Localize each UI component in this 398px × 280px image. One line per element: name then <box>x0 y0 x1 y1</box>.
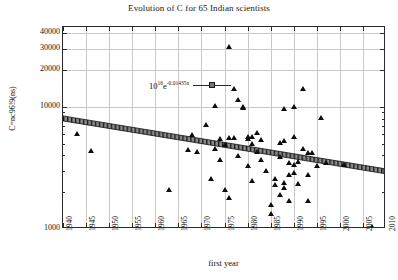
data-point-marker <box>281 106 287 111</box>
x-tick-label: 1975 <box>227 216 236 231</box>
x-tick-label: 1945 <box>88 216 97 231</box>
data-point-marker <box>222 187 228 192</box>
data-point-marker <box>254 130 260 135</box>
data-point-marker <box>272 182 278 187</box>
data-point-marker <box>314 163 320 168</box>
data-point-marker <box>318 115 324 120</box>
x-tick-label: 1965 <box>180 216 189 231</box>
trend-line <box>63 27 384 227</box>
data-point-marker <box>194 149 200 154</box>
data-point-marker <box>240 105 246 110</box>
data-point-marker <box>208 176 214 181</box>
data-point-marker <box>249 134 255 139</box>
data-point-marker <box>235 153 241 158</box>
data-point-marker <box>277 192 283 197</box>
data-point-marker <box>323 160 329 165</box>
data-point-marker <box>222 142 228 147</box>
x-tick-label: 1970 <box>203 216 212 231</box>
x-tick-label: 1985 <box>273 216 282 231</box>
data-point-marker <box>300 86 306 91</box>
data-point-marker <box>166 187 172 192</box>
data-point-marker <box>268 202 274 207</box>
data-point-marker <box>258 137 264 142</box>
y-tick-label: 1000 <box>2 224 60 232</box>
chart-container: Evolution of C for 65 Indian scientists … <box>0 0 398 280</box>
chart-title: Evolution of C for 65 Indian scientists <box>0 3 398 13</box>
x-axis-tick-labels: 1940194519501955196019651970197519801985… <box>62 230 385 256</box>
data-point-marker <box>249 178 255 183</box>
data-point-marker <box>189 132 195 137</box>
legend-square-marker <box>209 82 215 88</box>
data-point-marker <box>291 104 297 109</box>
data-point-marker <box>249 141 255 146</box>
plot-area: 1016e-0.01435x <box>62 26 385 228</box>
data-point-marker <box>341 162 347 167</box>
data-point-marker <box>309 150 315 155</box>
data-point-marker <box>217 157 223 162</box>
data-point-marker <box>231 135 237 140</box>
x-tick-label: 1990 <box>296 216 305 231</box>
data-point-marker <box>263 168 269 173</box>
data-point-marker <box>281 138 287 143</box>
legend-equation: 1016e-0.01435x <box>149 80 189 91</box>
data-point-marker <box>305 172 311 177</box>
data-point-marker <box>203 122 209 127</box>
data-point-marker <box>226 195 232 200</box>
data-point-marker <box>74 131 80 136</box>
x-axis-title: first year <box>62 258 385 268</box>
data-point-marker <box>305 198 311 203</box>
data-point-marker <box>291 170 297 175</box>
x-tick-label: 1980 <box>250 216 259 231</box>
data-point-marker <box>258 157 264 162</box>
x-tick-label: 1955 <box>134 216 143 231</box>
data-point-marker <box>277 154 283 159</box>
data-point-marker <box>286 198 292 203</box>
x-tick-label: 1940 <box>65 216 74 231</box>
data-point-marker <box>226 44 232 49</box>
data-point-marker <box>295 181 301 186</box>
x-tick-label: 2000 <box>342 216 351 231</box>
data-point-marker <box>245 163 251 168</box>
y-tick-label: 40000 <box>2 28 60 36</box>
data-point-marker <box>291 134 297 139</box>
data-point-marker <box>235 97 241 102</box>
data-point-marker <box>88 148 94 153</box>
y-tick-label: 30000 <box>2 44 60 52</box>
data-point-marker <box>272 176 278 181</box>
x-tick-label: 2010 <box>388 216 397 231</box>
data-point-marker <box>231 86 237 91</box>
data-point-marker <box>281 185 287 190</box>
legend-line-sample <box>193 81 231 89</box>
x-tick-label: 1950 <box>111 216 120 231</box>
data-point-marker <box>212 146 218 151</box>
data-point-marker <box>268 211 274 216</box>
chart-legend: 1016e-0.01435x <box>149 77 231 93</box>
x-tick-label: 1995 <box>319 216 328 231</box>
x-tick-label: 1960 <box>157 216 166 231</box>
x-tick-label: 2005 <box>365 216 374 231</box>
data-point-marker <box>217 136 223 141</box>
data-point-marker <box>295 159 301 164</box>
data-point-marker <box>212 103 218 108</box>
y-axis-title: C=nc96!9(ns) <box>8 71 17 147</box>
data-point-marker <box>254 149 260 154</box>
data-point-marker <box>185 147 191 152</box>
